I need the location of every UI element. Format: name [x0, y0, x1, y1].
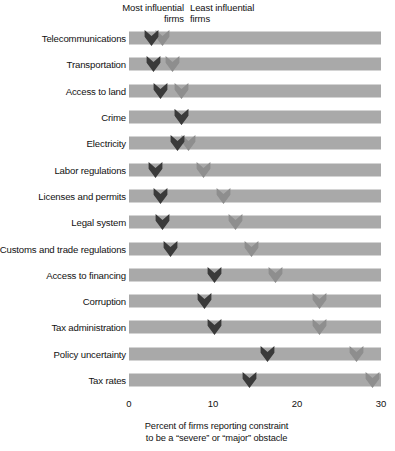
marker-least-influential — [165, 56, 180, 73]
marker-least-influential — [196, 161, 211, 178]
x-axis-caption: Percent of firms reporting constraint to… — [0, 421, 395, 444]
row-label: Tax administration — [51, 322, 126, 333]
row-label: Crime — [101, 112, 126, 123]
row-label: Policy uncertainty — [54, 348, 127, 359]
row-label: Legal system — [71, 217, 126, 228]
row-label: Licenses and permits — [38, 190, 126, 201]
row-label: Transportation — [67, 59, 126, 70]
marker-most-influential — [207, 266, 222, 283]
row-track — [129, 321, 381, 334]
marker-most-influential — [148, 161, 163, 178]
legend-most-influential-label: Most influential firms — [88, 2, 184, 24]
axis-tick-label: 30 — [376, 398, 387, 410]
marker-most-influential — [197, 293, 212, 310]
marker-most-influential — [163, 240, 178, 257]
x-axis: 0102030 — [129, 398, 381, 412]
row-track — [129, 268, 381, 281]
marker-least-influential — [244, 240, 259, 257]
chart-row: Policy uncertainty — [0, 341, 395, 367]
chart-row: Corruption — [0, 288, 395, 314]
row-label: Tax rates — [88, 375, 126, 386]
marker-most-influential — [155, 214, 170, 231]
row-label: Access to financing — [46, 269, 126, 280]
marker-least-influential — [349, 345, 364, 362]
marker-most-influential — [242, 372, 257, 389]
chart-row: Labor regulations — [0, 156, 395, 182]
marker-most-influential — [260, 345, 275, 362]
row-track — [129, 295, 381, 308]
chart-row: Customs and trade regulations — [0, 235, 395, 261]
constraints-chart: Most influential firms Least influential… — [0, 0, 395, 451]
chart-row: Tax administration — [0, 314, 395, 340]
marker-most-influential — [153, 187, 168, 204]
axis-tick-label: 10 — [208, 398, 219, 410]
axis-tick-label: 0 — [126, 398, 131, 410]
row-track — [129, 137, 381, 150]
marker-least-influential — [268, 266, 283, 283]
row-label: Corruption — [83, 296, 126, 307]
row-label: Access to land — [66, 85, 126, 96]
marker-least-influential — [365, 372, 380, 389]
chart-row: Access to financing — [0, 262, 395, 288]
chart-row: Electricity — [0, 130, 395, 156]
chart-row: Licenses and permits — [0, 183, 395, 209]
row-track — [129, 111, 381, 124]
chart-row: Telecommunications — [0, 25, 395, 51]
marker-least-influential — [312, 293, 327, 310]
chart-row: Crime — [0, 104, 395, 130]
marker-most-influential — [146, 56, 161, 73]
chart-row: Tax rates — [0, 367, 395, 393]
marker-least-influential — [312, 319, 327, 336]
row-label: Electricity — [87, 138, 126, 149]
marker-least-influential — [228, 214, 243, 231]
chart-row: Legal system — [0, 209, 395, 235]
chart-rows: TelecommunicationsTransportationAccess t… — [0, 25, 395, 393]
chart-row: Transportation — [0, 51, 395, 77]
chart-row: Access to land — [0, 78, 395, 104]
marker-most-influential — [170, 135, 185, 152]
marker-most-influential — [144, 30, 159, 47]
row-track — [129, 163, 381, 176]
marker-most-influential — [153, 82, 168, 99]
marker-least-influential — [216, 187, 231, 204]
marker-most-influential — [207, 319, 222, 336]
row-label: Telecommunications — [42, 33, 126, 44]
marker-most-influential — [174, 109, 189, 126]
axis-tick-label: 20 — [292, 398, 303, 410]
legend-least-influential-label: Least influential firms — [190, 2, 300, 24]
row-track — [129, 347, 381, 360]
row-label: Labor regulations — [54, 164, 126, 175]
marker-least-influential — [174, 82, 189, 99]
row-label: Customs and trade regulations — [0, 243, 126, 254]
